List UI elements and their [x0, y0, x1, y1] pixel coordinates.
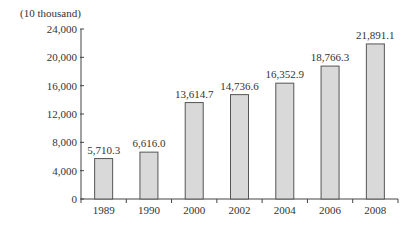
bar-chart: (10 thousand) 04,0008,00012,00016,00020,… [0, 0, 417, 227]
x-tick-label: 2006 [310, 204, 350, 216]
x-tick-label: 2002 [220, 204, 260, 216]
y-tick-label: 4,000 [52, 165, 77, 177]
value-label: 18,766.3 [300, 51, 360, 63]
bar-2002 [231, 95, 249, 199]
y-tick-label: 24,000 [47, 23, 77, 35]
y-tick-label: 16,000 [47, 80, 77, 92]
y-tick-label: 0 [72, 193, 78, 205]
value-label: 6,616.0 [119, 137, 179, 149]
bar-1989 [95, 159, 113, 199]
value-label: 14,736.6 [210, 80, 270, 92]
x-tick-label: 2004 [265, 204, 305, 216]
bar-2004 [276, 83, 294, 199]
y-tick-label: 20,000 [47, 51, 77, 63]
bar-2000 [185, 103, 203, 199]
x-tick-label: 2008 [355, 204, 395, 216]
bar-2006 [321, 66, 339, 199]
x-tick-label: 2000 [174, 204, 214, 216]
bar-1990 [140, 152, 158, 199]
value-label: 21,891.1 [345, 29, 405, 41]
x-tick-label: 1990 [129, 204, 169, 216]
value-label: 16,352.9 [255, 68, 315, 80]
x-tick-label: 1989 [84, 204, 124, 216]
y-tick-label: 12,000 [47, 108, 77, 120]
bar-2008 [366, 44, 384, 199]
